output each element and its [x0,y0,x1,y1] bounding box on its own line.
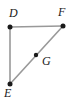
vertex-label-G: G [42,55,51,67]
vertex-point-F [61,24,66,29]
vertex-point-D [8,25,13,30]
vertex-label-E: E [4,87,11,99]
segment-DF [10,26,63,27]
vertex-point-G [34,53,38,57]
vertex-label-F: F [58,6,65,18]
geometry-figure: D F E G [0,0,75,104]
vertex-label-D: D [9,7,18,19]
